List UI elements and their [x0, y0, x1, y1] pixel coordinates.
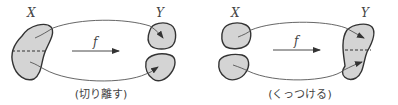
- map-label: f: [92, 35, 100, 49]
- caption: (切り離す): [75, 87, 128, 101]
- codomain-piece-bottom: [146, 54, 175, 81]
- caption: (くっつける): [268, 88, 332, 101]
- domain-label: X: [26, 6, 36, 20]
- codomain-label: Y: [156, 6, 165, 20]
- panel-cut: X Y f (切り離す): [12, 6, 176, 101]
- codomain-label: Y: [361, 6, 370, 20]
- domain-set-blob: [12, 24, 53, 79]
- domain-label: X: [230, 6, 240, 20]
- mapping-curve-bottom: [233, 62, 362, 80]
- mapping-curve-top: [35, 20, 163, 38]
- diagram-canvas: X Y f (切り離す) X Y f (くっ: [0, 0, 398, 105]
- mapping-curve-bottom: [30, 62, 158, 81]
- panel-glue: X Y f (くっつける): [219, 6, 374, 101]
- domain-piece-bottom: [219, 54, 249, 79]
- map-label: f: [293, 34, 301, 48]
- domain-piece-top: [222, 23, 251, 49]
- codomain-set-blob: [343, 24, 374, 79]
